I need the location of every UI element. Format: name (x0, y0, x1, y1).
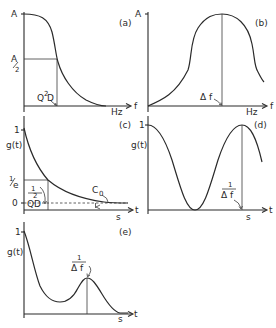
unit-hz: Hz (246, 107, 258, 117)
frac-den: Δ f (71, 263, 84, 273)
c0-arrow-icon (96, 205, 100, 209)
curve-c (24, 128, 128, 203)
y-one-e: 1 (15, 227, 21, 237)
axis-t: t (269, 205, 273, 215)
unit-s: s (246, 212, 251, 222)
curve-d (148, 125, 262, 210)
panel-tag-d: (d) (254, 120, 267, 130)
unit-s: s (118, 314, 123, 324)
panel-e: 1 g(t) 1 Δ f s t (e) (7, 222, 138, 324)
y-one-c: 1 (14, 125, 20, 135)
y-label-e: g(t) (7, 247, 23, 257)
y-one-d: 1 (139, 120, 145, 130)
panel-tag-c: (c) (119, 120, 131, 130)
panel-tag-e: (e) (119, 227, 132, 237)
y-zero-c: 0 (12, 198, 18, 208)
panel-tag-a: (a) (119, 18, 132, 28)
axis-t: t (134, 309, 138, 319)
y-half-num: A (11, 54, 18, 64)
axis-t: t (135, 205, 139, 215)
y-half-den: 2 (15, 66, 19, 74)
frac-den: Δ f (221, 190, 234, 200)
y-label-a: A (11, 9, 18, 19)
baseline-c: C (92, 185, 98, 195)
figure: A A 2 Q 2 D Hz f (a) A Δ f Hz f (b) (0, 0, 276, 328)
unit-hz: Hz (111, 107, 123, 117)
y-label-d: g(t) (131, 140, 147, 150)
d-label: D (47, 93, 54, 103)
panel-tag-b: (b) (255, 18, 268, 28)
pointer-arrow (234, 200, 241, 208)
frac-den: QD (27, 199, 41, 209)
baseline-sub: 0 (99, 190, 103, 198)
axis-f: f (270, 101, 274, 111)
panel-a: A A 2 Q 2 D Hz f (a) (11, 9, 138, 117)
y-e-den: e (13, 180, 19, 190)
frac-num: 1 (77, 254, 81, 262)
panel-d: 1 g(t) 1 Δ f s t (d) (131, 116, 273, 222)
y-label-c: g(t) (6, 140, 22, 150)
axis-f: f (134, 101, 138, 111)
delta-f-label: Δ f (200, 92, 213, 102)
panel-b: A Δ f Hz f (b) (135, 9, 274, 117)
y-label-b: A (135, 9, 142, 19)
pointer-arrow (88, 266, 91, 276)
frac-num: 1 (228, 181, 232, 189)
pointer-arrow (214, 99, 221, 105)
panel-c: 1 g(t) 1 e 0 1 2 QD C 0 s t (c) (6, 116, 139, 222)
unit-s: s (116, 212, 121, 222)
